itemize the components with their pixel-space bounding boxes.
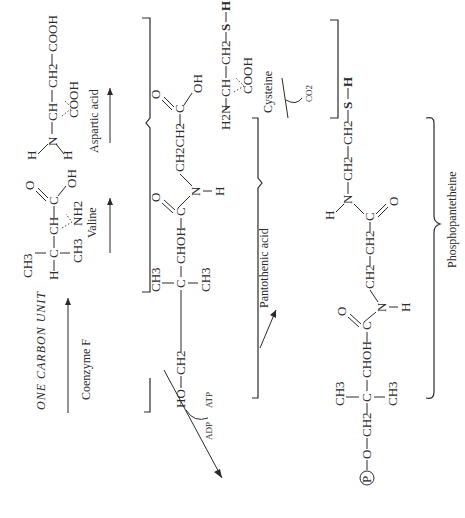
label-cysteine: Cysteine (261, 71, 275, 113)
cysteine-structure: H2N CH COOH CH2 S H (218, 1, 255, 130)
brace-phosphopantetheine (426, 118, 440, 399)
phosphopantetheine-structure: P O CH2 C CH3 CH3 CHOH C O N H CH2 CH (322, 77, 413, 485)
title-one-carbon-unit: ONE CARBON UNIT (34, 291, 48, 410)
svg-text:CH: CH (46, 217, 61, 235)
svg-text:S: S (340, 102, 355, 109)
svg-text:O: O (148, 90, 163, 99)
svg-text:P: P (359, 476, 374, 483)
label-valine: Valine (85, 207, 99, 238)
arrowhead-one-carbon (65, 298, 71, 305)
svg-text:CH2: CH2 (362, 230, 377, 255)
svg-text:C: C (359, 321, 374, 330)
svg-text:CH2: CH2 (362, 264, 377, 289)
svg-text:H: H (24, 151, 39, 160)
svg-text:H: H (212, 187, 227, 196)
svg-text:CH2: CH2 (45, 63, 60, 88)
brace-product-right (330, 20, 338, 118)
svg-text:CHOH: CHOH (173, 227, 188, 264)
svg-text:C: C (173, 279, 188, 288)
svg-text:N: N (374, 302, 389, 312)
brace-hoch2 (144, 378, 150, 412)
svg-text:CH3: CH3 (198, 267, 213, 292)
brace-pantothenic (142, 18, 150, 292)
arrow-cysteine (282, 78, 288, 118)
svg-text:HO: HO (173, 389, 188, 408)
diagram-stage: ONE CARBON UNIT Coenzyme F CH3 H C CH3 C… (0, 0, 465, 518)
svg-text:CH2: CH2 (340, 156, 355, 181)
aspartic-acid-structure: H H N CH COOH CH2 COOH (24, 15, 81, 160)
pantothenic-acid-structure: HO CH2 C CH3 CH3 CHOH C O N H CH2CH2 C (148, 74, 227, 408)
svg-text:CH2: CH2 (173, 350, 188, 375)
svg-text:H: H (398, 303, 413, 312)
svg-text:O: O (334, 307, 349, 316)
label-pantothenic-acid: Pantothenic acid (257, 228, 271, 308)
svg-text:O: O (148, 193, 163, 202)
svg-text:O: O (22, 181, 37, 190)
svg-text:N: N (340, 194, 355, 204)
svg-text:CH: CH (218, 79, 233, 97)
svg-text:H: H (218, 1, 233, 11)
svg-text:CH2CH2: CH2CH2 (172, 123, 187, 172)
svg-text:CH2: CH2 (359, 412, 374, 437)
svg-text:N: N (188, 186, 203, 196)
svg-text:OH: OH (190, 74, 205, 93)
svg-text:S: S (218, 24, 233, 31)
svg-text:CH2: CH2 (340, 120, 355, 145)
svg-text:N: N (45, 136, 60, 146)
label-atp: ATP (204, 392, 214, 408)
svg-text:H: H (322, 211, 337, 220)
svg-text:C: C (46, 249, 61, 258)
svg-text:CH3: CH3 (20, 253, 35, 278)
label-co2: CO2 (304, 85, 314, 102)
svg-text:O: O (386, 197, 401, 206)
svg-text:H: H (46, 271, 61, 280)
svg-text:OH: OH (64, 169, 79, 188)
svg-text:CH3: CH3 (70, 238, 85, 263)
label-adp: ADP (204, 422, 214, 440)
svg-text:COOH: COOH (45, 15, 60, 52)
svg-text:CH3: CH3 (148, 267, 163, 292)
svg-text:O: O (359, 450, 374, 459)
label-aspartic-acid: Aspartic acid (87, 89, 101, 153)
svg-text:C: C (172, 104, 187, 113)
svg-text:H: H (340, 77, 355, 87)
biosynthesis-diagram: ONE CARBON UNIT Coenzyme F CH3 H C CH3 C… (0, 0, 465, 518)
label-phosphopantetheine: Phosphopantetheine (445, 171, 459, 268)
svg-text:CH: CH (45, 103, 60, 121)
svg-text:C: C (359, 393, 374, 402)
label-coenzyme-f: Coenzyme F (79, 339, 93, 400)
arrow-co2 (286, 98, 302, 103)
svg-text:C: C (173, 207, 188, 216)
svg-text:CH2: CH2 (218, 40, 233, 65)
svg-text:COOH: COOH (240, 57, 255, 94)
svg-text:CH3: CH3 (332, 381, 347, 406)
svg-text:CHOH: CHOH (359, 341, 374, 378)
valine-structure: CH3 H C CH3 CH NH2 C O OH (20, 169, 85, 280)
svg-text:CH3: CH3 (385, 381, 400, 406)
svg-text:NH2: NH2 (70, 201, 85, 226)
svg-text:COOH: COOH (66, 81, 81, 118)
